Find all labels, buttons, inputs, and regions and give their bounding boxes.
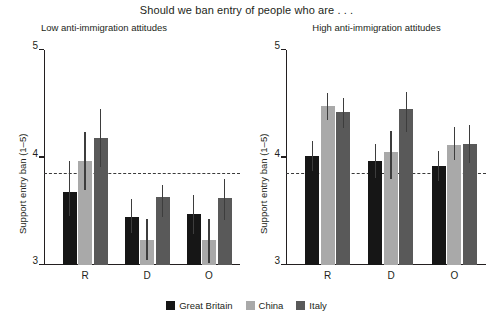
y-tick-label-3: 3 [24, 255, 38, 266]
x-tick-label-D: D [116, 270, 178, 281]
legend-label-china: China [259, 300, 284, 311]
y-tick-3 [39, 264, 44, 265]
y-tick-label-4: 4 [266, 147, 280, 158]
y-tick-5 [39, 49, 44, 50]
error-bar-D-china [390, 131, 391, 179]
chart-title: Should we ban entry of people who are . … [0, 4, 493, 16]
error-bar-D-great-britain [375, 144, 376, 178]
error-bar-D-italy [162, 185, 163, 216]
y-tick-label-5: 5 [266, 40, 280, 51]
bar-O-china [447, 145, 461, 265]
bar-group-R: R [54, 50, 116, 265]
plot-area-left: 345RDO [44, 50, 240, 265]
x-tick-label-O: O [178, 270, 240, 281]
y-tick-label-5: 5 [24, 40, 38, 51]
error-bar-O-china [454, 127, 455, 159]
bar-R-italy [336, 112, 350, 265]
error-bar-O-italy [469, 125, 470, 163]
error-bar-R-china [84, 132, 85, 190]
y-tick-label-3: 3 [266, 255, 280, 266]
panel-low-attitudes: Low anti-immigration attitudes Support e… [4, 22, 248, 272]
x-tick-label-D: D [359, 270, 422, 281]
x-tick-label-O: O [423, 270, 486, 281]
error-bar-O-great-britain [193, 195, 194, 234]
bar-group-O: O [423, 50, 486, 265]
legend-swatch-china [246, 301, 255, 310]
legend-label-great-britain: Great Britain [179, 300, 232, 311]
legend-label-italy: Italy [309, 300, 326, 311]
panel-high-attitudes: High anti-immigration attitudes Support … [248, 22, 493, 272]
bar-group-O: O [178, 50, 240, 265]
legend-item-china: China [246, 300, 284, 311]
x-tick-label-R: R [296, 270, 359, 281]
bar-group-R: R [296, 50, 359, 265]
y-tick-4 [281, 156, 286, 157]
y-tick-5 [281, 49, 286, 50]
error-bar-R-italy [100, 109, 101, 167]
error-bar-O-italy [224, 179, 225, 220]
error-bar-O-china [208, 219, 209, 263]
legend-item-italy: Italy [296, 300, 326, 311]
error-bar-D-italy [406, 92, 407, 132]
bar-group-D: D [116, 50, 178, 265]
y-tick-4 [39, 156, 44, 157]
error-bar-R-china [327, 93, 328, 120]
chart-legend: Great BritainChinaItaly [0, 300, 493, 311]
legend-swatch-italy [296, 301, 305, 310]
bar-group-D: D [359, 50, 422, 265]
y-axis-line-right [286, 50, 287, 265]
bar-R-china [321, 106, 335, 265]
bar-R-great-britain [305, 156, 319, 265]
error-bar-O-great-britain [438, 151, 439, 181]
y-axis-line-left [44, 50, 45, 265]
legend-swatch-great-britain [166, 301, 175, 310]
bar-D-italy [399, 109, 413, 265]
y-tick-label-4: 4 [24, 147, 38, 158]
error-bar-D-great-britain [131, 199, 132, 232]
y-tick-3 [281, 264, 286, 265]
error-bar-R-great-britain [69, 161, 70, 216]
plot-area-right: 345RDO [286, 50, 486, 265]
panel-title-high: High anti-immigration attitudes [254, 22, 493, 33]
error-bar-D-china [146, 219, 147, 260]
chart-figure: Should we ban entry of people who are . … [0, 0, 493, 319]
error-bar-R-great-britain [312, 141, 313, 171]
panel-title-low: Low anti-immigration attitudes [0, 22, 226, 33]
x-tick-label-R: R [54, 270, 116, 281]
legend-item-great-britain: Great Britain [166, 300, 232, 311]
error-bar-R-italy [343, 98, 344, 128]
